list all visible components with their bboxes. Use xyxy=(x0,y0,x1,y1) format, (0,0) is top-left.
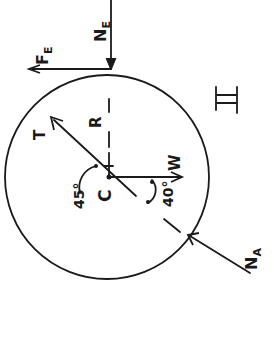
normal-force-a-arrow xyxy=(188,233,250,273)
label-radius: R xyxy=(87,116,105,128)
label-angle-40: 40° xyxy=(160,181,176,207)
label-n-a: NA xyxy=(242,248,264,270)
center-point xyxy=(107,175,112,180)
label-angle-45: 45° xyxy=(71,183,87,209)
roman-numeral-two xyxy=(216,87,237,113)
radius-line xyxy=(104,99,113,177)
label-center: C xyxy=(95,190,115,202)
friction-force-e-arrow xyxy=(29,65,111,73)
label-f-e: FE xyxy=(33,47,55,65)
free-body-diagram: NE FE R T W C 45° 40° NA xyxy=(0,0,274,339)
label-weight: W xyxy=(166,154,184,171)
label-n-e: NE xyxy=(91,21,113,42)
label-tension: T xyxy=(31,129,49,140)
normal-a-dashed-line xyxy=(164,219,180,232)
